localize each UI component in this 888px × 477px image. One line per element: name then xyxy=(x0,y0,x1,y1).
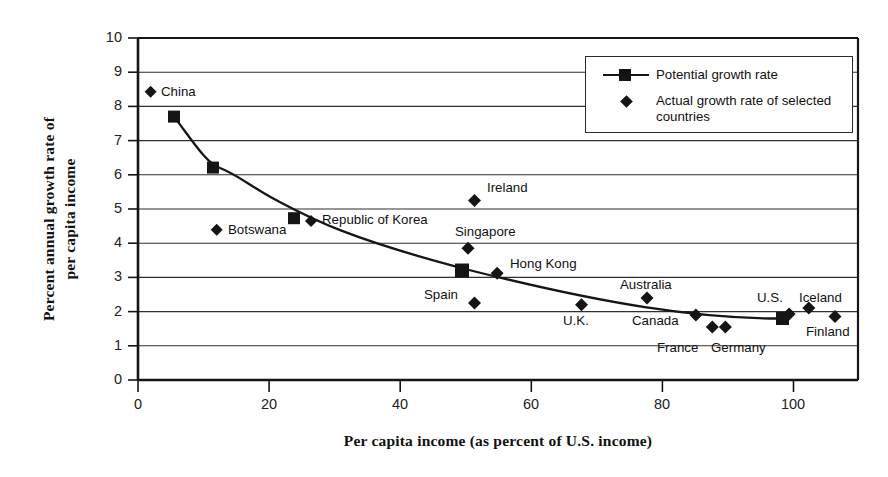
y-tick-label: 7 xyxy=(88,132,122,148)
marker-square xyxy=(288,212,300,224)
point-label-uk: U.K. xyxy=(563,313,589,328)
point-label-germany: Germany xyxy=(711,340,766,355)
point-label-botswana: Botswana xyxy=(228,222,286,237)
point-label-france: France xyxy=(657,340,698,355)
x-tick-label: 0 xyxy=(118,396,158,412)
point-label-finland: Finland xyxy=(806,324,850,339)
legend-item-actual-growth-rate: Actual growth rate of selected countries xyxy=(656,93,848,125)
potential-growth-curve xyxy=(174,117,790,319)
y-axis-title-line2: per capita income xyxy=(59,54,80,384)
point-label-china: China xyxy=(161,84,196,99)
x-tick-label: 60 xyxy=(511,396,551,412)
legend-item-potential-growth-rate: Potential growth rate xyxy=(656,67,846,83)
marker-diamond-france xyxy=(706,321,719,334)
point-label-spain: Spain xyxy=(424,287,458,302)
marker-diamond-canada xyxy=(689,309,702,322)
marker-square xyxy=(168,111,180,123)
y-tick-marks xyxy=(128,38,138,380)
y-tick-label: 9 xyxy=(88,63,122,79)
point-label-ireland: Ireland xyxy=(487,180,528,195)
y-tick-label: 1 xyxy=(88,337,122,353)
legend-square-marker xyxy=(619,69,631,81)
marker-diamond-china xyxy=(145,86,157,98)
potential-growth-markers xyxy=(168,111,789,325)
y-axis-title: Percent annual growth rate of per capita… xyxy=(38,54,80,384)
y-tick-label: 0 xyxy=(88,371,122,387)
marker-diamond-uk xyxy=(575,298,588,311)
y-tick-label: 6 xyxy=(88,166,122,182)
point-label-iceland: Iceland xyxy=(799,290,842,305)
marker-square xyxy=(455,264,469,278)
x-axis-title: Per capita income (as percent of U.S. in… xyxy=(138,432,858,450)
point-label-korea: Republic of Korea xyxy=(322,212,428,227)
marker-diamond-germany xyxy=(719,321,732,334)
point-label-canada: Canada xyxy=(632,313,679,328)
y-tick-label: 3 xyxy=(88,268,122,284)
y-tick-label: 5 xyxy=(88,200,122,216)
y-tick-label: 2 xyxy=(88,303,122,319)
y-axis-title-line1: Percent annual growth rate of xyxy=(40,117,57,321)
x-tick-marks xyxy=(138,380,794,392)
y-tick-label: 10 xyxy=(88,29,122,45)
point-label-hongkong: Hong Kong xyxy=(510,256,577,271)
marker-diamond-australia xyxy=(641,292,654,305)
marker-square xyxy=(207,162,219,174)
chart-legend: Potential growth rate Actual growth rate… xyxy=(585,56,853,133)
y-tick-label: 4 xyxy=(88,234,122,250)
x-tick-label: 80 xyxy=(642,396,682,412)
growth-rate-scatter-chart: 10 9 8 7 6 5 4 3 2 1 0 0 20 40 60 80 100… xyxy=(0,0,888,477)
point-label-singapore: Singapore xyxy=(455,224,516,239)
point-label-australia: Australia xyxy=(620,277,672,292)
legend-diamond-marker xyxy=(620,95,633,108)
point-label-us: U.S. xyxy=(757,290,783,305)
x-tick-label: 40 xyxy=(380,396,420,412)
marker-diamond-botswana xyxy=(211,224,223,236)
x-tick-label: 100 xyxy=(773,396,813,412)
marker-diamond-ireland xyxy=(468,194,481,207)
x-tick-label: 20 xyxy=(249,396,289,412)
y-tick-label: 8 xyxy=(88,97,122,113)
marker-diamond-spain xyxy=(468,297,481,310)
